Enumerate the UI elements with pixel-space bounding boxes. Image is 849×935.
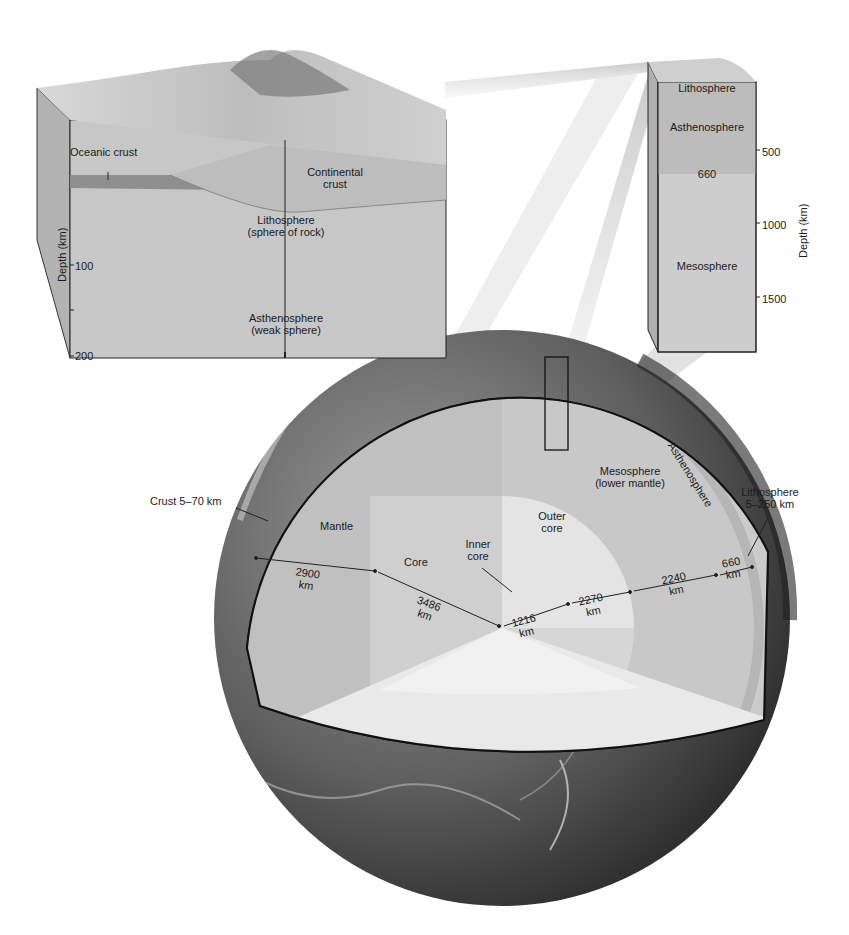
distance-mantle: 2900 km bbox=[288, 565, 325, 593]
block-axis-title: Depth (km) bbox=[56, 228, 68, 282]
label-continental-crust: Continental crust bbox=[300, 166, 370, 190]
label-core: Core bbox=[404, 556, 428, 568]
mantle-column bbox=[648, 58, 760, 352]
column-axis-title: Depth (km) bbox=[797, 204, 809, 258]
block-tick-200: 200 bbox=[75, 350, 93, 362]
label-column-asthenosphere: Asthenosphere bbox=[658, 121, 756, 133]
block-tick-100: 100 bbox=[75, 260, 93, 272]
label-inner-core: Inner core bbox=[458, 538, 498, 562]
column-tick-1500: 1500 bbox=[762, 293, 786, 305]
globe bbox=[200, 320, 802, 906]
label-column-660: 660 bbox=[658, 168, 756, 180]
label-oceanic-crust: Oceanic crust bbox=[70, 146, 137, 158]
label-outer-core: Outer core bbox=[532, 510, 572, 534]
earth-layers-illustration bbox=[0, 0, 849, 935]
label-mantle: Mantle bbox=[320, 520, 353, 532]
column-tick-500: 500 bbox=[762, 146, 780, 158]
label-column-lithosphere: Lithosphere bbox=[658, 82, 756, 94]
label-crust: Crust 5–70 km bbox=[150, 495, 222, 507]
column-tick-1000: 1000 bbox=[762, 219, 786, 231]
label-lithosphere-range: Lithosphere 5–250 km bbox=[735, 486, 805, 510]
distance-upper-mantle: 660 km bbox=[716, 554, 748, 582]
label-mesosphere: Mesosphere (lower mantle) bbox=[585, 465, 675, 489]
label-lithosphere-block: Lithosphere (sphere of rock) bbox=[240, 214, 332, 238]
label-asthenosphere-block: Asthenosphere (weak sphere) bbox=[240, 312, 332, 336]
label-column-mesosphere: Mesosphere bbox=[658, 260, 756, 272]
